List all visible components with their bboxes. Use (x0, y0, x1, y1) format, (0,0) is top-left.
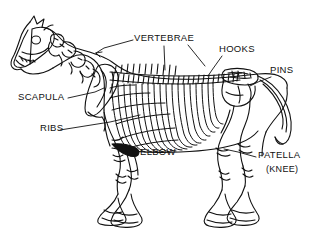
horse-skeleton-illustration: VERTEBRAE HOOKS PINS SCAPULA RIBS ELBOW … (0, 0, 317, 237)
diagram-canvas: VERTEBRAE HOOKS PINS SCAPULA RIBS ELBOW … (0, 0, 317, 237)
label-scapula: SCAPULA (18, 91, 65, 102)
label-knee: (KNEE) (266, 164, 298, 174)
label-pins: PINS (270, 64, 293, 75)
label-elbow: ELBOW (140, 146, 176, 157)
label-patella: PATELLA (258, 149, 301, 160)
label-hooks: HOOKS (219, 43, 255, 54)
label-ribs: RIBS (40, 122, 63, 133)
label-vertebrae: VERTEBRAE (134, 32, 194, 43)
